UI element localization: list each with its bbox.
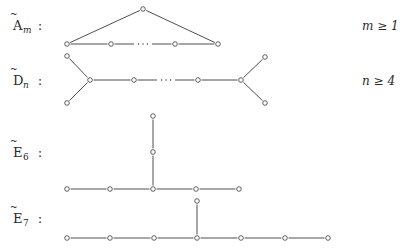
ellipsis-dot xyxy=(147,43,148,44)
graph-a xyxy=(65,7,221,47)
diagram-label-a: A ~ m : m ≥ 1 xyxy=(10,9,399,35)
label-subscript: 6 xyxy=(23,152,29,162)
ellipsis-dot xyxy=(170,79,171,80)
condition-text: m ≥ 1 xyxy=(362,19,399,33)
diagram-label-e7: E ~ 7 : xyxy=(10,202,42,228)
vertex-node xyxy=(88,78,93,83)
edge xyxy=(69,59,87,78)
label-letter: A xyxy=(12,18,23,33)
vertex-node xyxy=(263,101,268,106)
label-letter: E xyxy=(13,211,23,226)
vertex-node xyxy=(216,42,221,47)
label-letter: E xyxy=(13,145,23,160)
edge xyxy=(244,82,263,100)
vertex-node xyxy=(239,78,244,83)
dynkin-diagrams: A ~ m : m ≥ 1 D ~ n : n ≥ 4 E ~ 6 : E ~ … xyxy=(0,0,404,250)
label-colon: : xyxy=(38,19,42,33)
label-colon: : xyxy=(38,212,42,226)
vertex-node xyxy=(239,236,244,241)
diagram-label-e6: E ~ 6 : xyxy=(10,136,42,162)
label-subscript: m xyxy=(23,25,32,35)
label-letter: D xyxy=(13,73,23,88)
vertex-node xyxy=(195,236,200,241)
vertex-node xyxy=(194,187,199,192)
graph-e7 xyxy=(65,199,331,241)
tilde-mark: ~ xyxy=(10,9,18,19)
label-subscript: n xyxy=(23,80,29,90)
graph-e6 xyxy=(65,114,242,192)
vertex-node xyxy=(65,54,70,59)
graph-layer xyxy=(65,7,331,241)
edge xyxy=(70,10,140,42)
ellipsis-dot xyxy=(138,43,139,44)
vertex-node xyxy=(263,55,268,60)
condition-text: n ≥ 4 xyxy=(362,74,395,88)
vertex-node xyxy=(108,187,113,192)
vertex-node xyxy=(195,199,200,204)
label-colon: : xyxy=(38,146,42,160)
vertex-node xyxy=(132,78,137,83)
tilde-mark: ~ xyxy=(10,202,18,212)
vertex-node xyxy=(151,114,156,119)
vertex-node xyxy=(141,7,146,12)
vertex-node xyxy=(326,236,331,241)
vertex-node xyxy=(196,78,201,83)
tilde-mark: ~ xyxy=(10,64,18,74)
ellipsis-dot xyxy=(165,79,166,80)
edge xyxy=(244,59,263,77)
vertex-node xyxy=(65,187,70,192)
vertex-node xyxy=(65,236,70,241)
diagram-label-d: D ~ n : n ≥ 4 xyxy=(10,64,395,90)
vertex-node xyxy=(237,187,242,192)
vertex-node xyxy=(109,42,114,47)
edge xyxy=(69,82,87,100)
vertex-node xyxy=(108,236,113,241)
vertex-node xyxy=(151,187,156,192)
label-subscript: 7 xyxy=(23,218,29,228)
vertex-node xyxy=(173,42,178,47)
tilde-mark: ~ xyxy=(10,136,18,146)
vertex-node xyxy=(152,236,157,241)
graph-d xyxy=(65,54,268,106)
label-colon: : xyxy=(38,74,42,88)
vertex-node xyxy=(65,101,70,106)
edge xyxy=(146,10,215,42)
vertex-node xyxy=(65,42,70,47)
vertex-node xyxy=(283,236,288,241)
ellipsis-dot xyxy=(142,43,143,44)
ellipsis-dot xyxy=(161,79,162,80)
vertex-node xyxy=(151,150,156,155)
